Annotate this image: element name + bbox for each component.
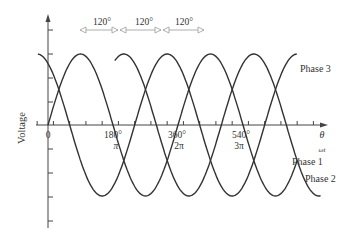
- tick-label-pi: π: [114, 141, 119, 151]
- tick-label-3pi: 3π: [234, 141, 244, 151]
- tick-label-2pi: 2π: [174, 141, 184, 151]
- tick-label-180: 180°: [104, 130, 122, 140]
- shift-label-3: 120°: [175, 17, 193, 27]
- phase-2-label: Phase 2: [305, 173, 336, 184]
- tick-label-540: 540°: [232, 130, 250, 140]
- phase-1-label: Phase 1: [292, 156, 323, 167]
- y-axis-label: Voltage: [16, 112, 27, 144]
- phase-shift-indicators: [80, 27, 204, 33]
- shift-label-2: 120°: [135, 17, 153, 27]
- three-phase-diagram: 120° 120° 120° 0 180° π 360° 2π 540° 3π …: [0, 0, 350, 241]
- phase-3-label: Phase 3: [300, 63, 331, 74]
- origin-label: 0: [46, 130, 51, 140]
- y-axis-arrow-icon: [46, 14, 51, 22]
- theta-label: θ: [320, 129, 325, 140]
- omega-t-label: ωt: [319, 146, 327, 154]
- x-axis: [36, 121, 328, 128]
- shift-label-1: 120°: [93, 17, 111, 27]
- x-axis-arrow-icon: [320, 123, 328, 128]
- tick-label-360: 360°: [168, 130, 186, 140]
